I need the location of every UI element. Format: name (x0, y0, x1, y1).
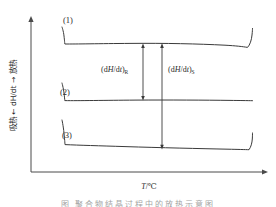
x-axis-title: T/℃ (141, 182, 157, 191)
curve-three-label: (3) (62, 130, 72, 140)
figure-caption-container: 图 聚合物结晶过程中的放热示意图 (0, 193, 276, 207)
curve-one-path (62, 27, 253, 47)
chart-canvas: (1) (2) (3) (dH/dt)R (dH/dt)S T/℃ (0, 0, 276, 207)
x-axis-title-unit: /℃ (146, 182, 157, 191)
curve-two-path (62, 83, 253, 101)
annotation-r-subscript: R (125, 69, 129, 75)
thermal-analysis-figure: (1) (2) (3) (dH/dt)R (dH/dt)S T/℃ 吸热 ← d… (0, 0, 276, 207)
measure-arrow-s-head-bottom (160, 145, 164, 150)
figure-caption: 图 聚合物结晶过程中的放热示意图 (61, 200, 216, 207)
annotation-dhdt-s: (dH/dt)S (168, 65, 195, 75)
x-axis (31, 169, 268, 174)
y-axis-arrowhead (28, 16, 33, 22)
measure-arrow-r (141, 43, 145, 100)
x-axis-arrowhead (262, 169, 268, 174)
curve-one-label: (1) (63, 15, 73, 25)
measure-arrow-s (160, 43, 164, 149)
curve-three-path (62, 120, 253, 150)
curve-two-label: (2) (60, 87, 70, 97)
annotation-s-subscript: S (192, 69, 195, 75)
measure-arrow-r-head-top (141, 43, 145, 48)
y-axis (28, 16, 33, 172)
annotation-dhdt-r: (dH/dt)R (101, 65, 129, 75)
measure-arrow-s-head-top (160, 43, 164, 48)
